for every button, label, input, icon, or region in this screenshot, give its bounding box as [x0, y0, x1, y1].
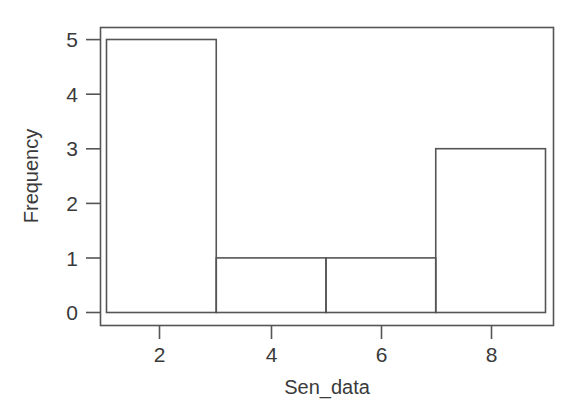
y-tick-label: 0	[66, 301, 78, 324]
x-tick-label: 4	[266, 343, 278, 366]
y-tick-label: 1	[66, 247, 78, 270]
y-tick-label: 5	[66, 28, 78, 51]
x-axis-title: Sen_data	[284, 376, 371, 399]
histogram-svg: 0 1 2 3 4 5 2 4 6 8 Sen_data Frequency	[0, 0, 582, 411]
y-tick-label: 2	[66, 192, 78, 215]
y-tick-label: 3	[66, 137, 78, 160]
y-tick-label: 4	[66, 83, 78, 106]
x-tick-label: 6	[376, 343, 388, 366]
histogram-figure: 0 1 2 3 4 5 2 4 6 8 Sen_data Frequency	[0, 0, 582, 411]
x-tick-label: 2	[154, 343, 166, 366]
x-tick-label: 8	[486, 343, 498, 366]
y-axis-title: Frequency	[20, 129, 42, 224]
